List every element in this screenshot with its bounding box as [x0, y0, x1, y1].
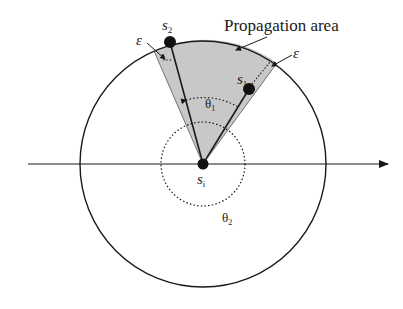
- propagation-area-pointer: [236, 37, 267, 50]
- propagation-area-label: Propagation area: [224, 16, 339, 35]
- label-s2: s2: [162, 17, 172, 35]
- propagation-diagram: Propagation area s2 s1 si θ1 θ2 ε ε: [0, 0, 403, 309]
- label-epsilon-left: ε: [136, 32, 142, 48]
- propagation-sector: [154, 40, 277, 164]
- label-epsilon-right: ε: [293, 45, 299, 61]
- node-center-si: [198, 159, 209, 170]
- epsilon-right-pointer: [272, 55, 292, 66]
- label-si: si: [197, 171, 206, 189]
- node-s2: [164, 36, 176, 48]
- label-theta2: θ2: [222, 210, 232, 227]
- diagram-canvas: Propagation area s2 s1 si θ1 θ2 ε ε: [0, 0, 403, 309]
